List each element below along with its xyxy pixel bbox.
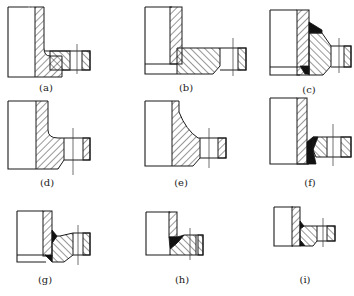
panel-g xyxy=(17,211,90,265)
caption-e: (e) xyxy=(161,177,201,188)
flange-hatch xyxy=(177,48,220,74)
shell-wall-hatch xyxy=(297,10,309,75)
weld-top xyxy=(309,22,322,33)
integral-flange-hatch xyxy=(36,101,64,169)
panel-a xyxy=(8,7,90,77)
flange-hatch xyxy=(313,137,327,157)
panel-c xyxy=(270,10,351,75)
flange-diagram xyxy=(0,0,354,296)
shell-wall-hatch xyxy=(292,207,300,246)
panel-b xyxy=(145,7,246,76)
shell-wall-hatch xyxy=(169,212,177,237)
caption-f: (f) xyxy=(290,177,330,188)
hub-hatch xyxy=(309,33,331,75)
hub-hatch xyxy=(300,226,317,246)
caption-g: (g) xyxy=(25,274,65,285)
panel-f xyxy=(270,98,351,166)
weld-bottom xyxy=(45,255,52,262)
caption-h: (h) xyxy=(162,274,202,285)
shell-wall-hatch xyxy=(43,211,52,256)
panel-h xyxy=(146,212,203,260)
caption-i: (i) xyxy=(285,274,325,285)
panel-e xyxy=(145,101,226,168)
caption-c: (c) xyxy=(289,84,329,95)
shell-wall-hatch xyxy=(297,98,307,164)
hub-hatch xyxy=(172,101,200,166)
caption-d: (d) xyxy=(27,177,67,188)
panel-d xyxy=(8,101,90,175)
caption-a: (a) xyxy=(26,82,66,93)
caption-b: (b) xyxy=(166,82,206,93)
panel-i xyxy=(274,207,335,247)
flange-hatch xyxy=(50,51,70,70)
